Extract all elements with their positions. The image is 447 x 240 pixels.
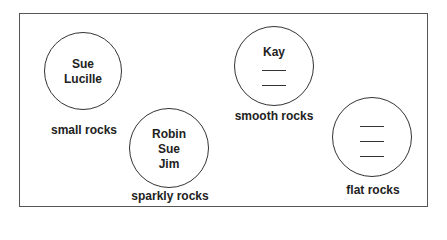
blank-line <box>235 60 313 75</box>
member-name: Robin <box>130 127 208 142</box>
member-name: Sue <box>45 57 121 72</box>
blank-line <box>235 75 313 90</box>
blank-line <box>333 116 411 131</box>
blank-line <box>333 146 411 161</box>
group-members: RobinSueJim <box>130 127 208 172</box>
group-circle-flat-rocks <box>332 97 412 177</box>
group-circle-small-rocks: SueLucille <box>44 32 122 110</box>
member-name: Kay <box>235 45 313 60</box>
blank-line <box>333 131 411 146</box>
group-circle-smooth-rocks: Kay <box>234 26 314 106</box>
member-name: Jim <box>130 157 208 172</box>
member-name: Sue <box>130 142 208 157</box>
group-circle-sparkly-rocks: RobinSueJim <box>129 108 209 188</box>
group-label-smooth-rocks: smooth rocks <box>235 109 314 123</box>
group-members <box>333 116 411 161</box>
group-label-small-rocks: small rocks <box>51 123 117 137</box>
member-name: Lucille <box>45 72 121 87</box>
group-label-flat-rocks: flat rocks <box>346 183 399 197</box>
group-members: Kay <box>235 45 313 90</box>
group-label-sparkly-rocks: sparkly rocks <box>131 189 208 203</box>
group-members: SueLucille <box>45 57 121 87</box>
